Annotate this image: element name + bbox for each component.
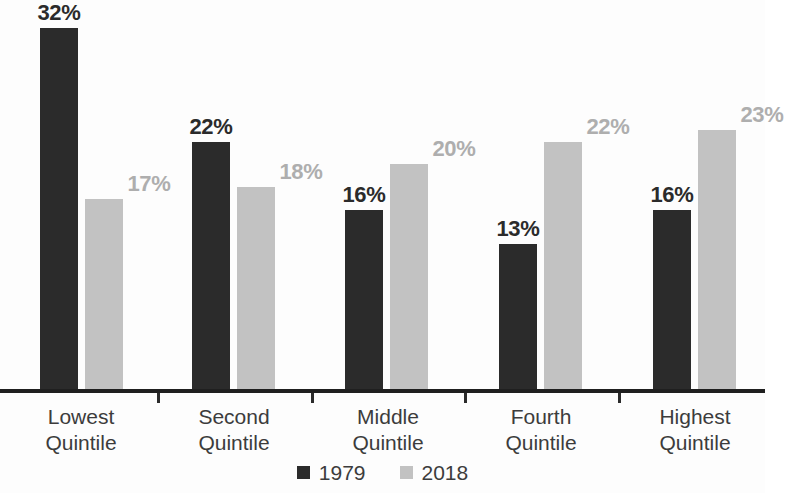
- bar-2018[interactable]: 22%: [544, 142, 582, 392]
- chart-legend: 1979 2018: [0, 462, 765, 483]
- x-axis-line: [0, 389, 765, 393]
- bar-group: 13% 22%: [499, 0, 582, 392]
- category-label-line1: Lowest: [48, 405, 115, 428]
- bar-group: 16% 20%: [345, 0, 428, 392]
- category-label-line1: Middle: [357, 405, 419, 428]
- bar-value-label: 16%: [637, 182, 707, 208]
- bar-value-label: 22%: [573, 114, 643, 140]
- axis-tick: [157, 393, 160, 403]
- legend-item-1979[interactable]: 1979: [297, 462, 366, 483]
- category-label-line1: Second: [198, 405, 269, 428]
- bar-group: 16% 23%: [653, 0, 736, 392]
- category-label-line1: Fourth: [511, 405, 572, 428]
- bar-value-label: 13%: [483, 216, 553, 242]
- bar-2018[interactable]: 23%: [698, 130, 736, 392]
- bar-value-label: 32%: [24, 0, 94, 26]
- bar-1979[interactable]: 16%: [345, 210, 383, 392]
- legend-swatch-icon: [400, 466, 413, 479]
- x-axis-category-label: Fourth Quintile: [466, 404, 616, 456]
- category-label-line2: Quintile: [620, 430, 770, 456]
- axis-tick: [464, 393, 467, 403]
- bar-value-label: 17%: [114, 171, 184, 197]
- bar-2018[interactable]: 17%: [85, 199, 123, 392]
- bar-value-label: 23%: [727, 102, 788, 128]
- category-label-line2: Quintile: [6, 430, 156, 456]
- axis-tick: [618, 393, 621, 403]
- axis-tick: [311, 393, 314, 403]
- x-axis-category-label: Highest Quintile: [620, 404, 770, 456]
- legend-label: 2018: [422, 462, 469, 483]
- legend-label: 1979: [319, 462, 366, 483]
- bar-2018[interactable]: 20%: [390, 164, 428, 392]
- bar-2018[interactable]: 18%: [237, 187, 275, 392]
- category-label-line1: Highest: [659, 405, 730, 428]
- plot-area: 32% 17% 22% 18% 16% 20%: [0, 0, 765, 392]
- bar-value-label: 18%: [266, 159, 336, 185]
- bar-1979[interactable]: 32%: [40, 28, 78, 392]
- bar-value-label: 20%: [419, 136, 489, 162]
- category-label-line2: Quintile: [466, 430, 616, 456]
- bar-1979[interactable]: 13%: [499, 244, 537, 392]
- legend-item-2018[interactable]: 2018: [400, 462, 469, 483]
- bar-1979[interactable]: 22%: [192, 142, 230, 392]
- category-label-line2: Quintile: [313, 430, 463, 456]
- bar-value-label: 22%: [176, 114, 246, 140]
- bar-value-label: 16%: [329, 182, 399, 208]
- bar-group: 32% 17%: [40, 0, 123, 392]
- bar-group: 22% 18%: [192, 0, 275, 392]
- x-axis-category-label: Lowest Quintile: [6, 404, 156, 456]
- x-axis-category-label: Middle Quintile: [313, 404, 463, 456]
- x-axis-category-label: Second Quintile: [159, 404, 309, 456]
- category-label-line2: Quintile: [159, 430, 309, 456]
- legend-swatch-icon: [297, 466, 310, 479]
- bar-1979[interactable]: 16%: [653, 210, 691, 392]
